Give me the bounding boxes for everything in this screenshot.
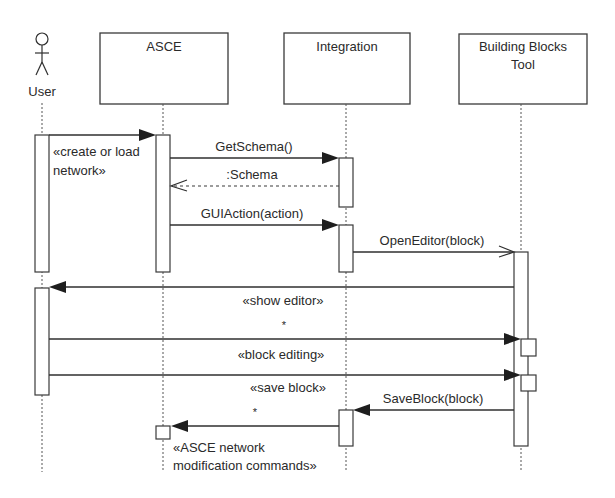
message-open-editor: OpenEditor(block)	[353, 233, 514, 257]
message-get-schema-label: GetSchema()	[215, 139, 292, 154]
activation-integration-1	[339, 158, 353, 207]
message-modification-label-line1: «ASCE network	[173, 440, 265, 455]
stick-figure-icon	[35, 33, 49, 75]
message-schema-label: :Schema	[226, 167, 278, 182]
message-schema-return: :Schema	[171, 167, 339, 191]
participant-bbt-label-line2: Tool	[511, 57, 535, 72]
activation-user-2	[35, 288, 49, 395]
message-create-label-line1: «create or load	[53, 144, 140, 159]
message-save-block-label: «save block»	[250, 380, 326, 395]
message-open-editor-label: OpenEditor(block)	[380, 233, 485, 248]
message-modification-label-line2: modification commands»	[173, 458, 317, 473]
multiplicity-mark-1: *	[282, 319, 287, 331]
message-save-block-call-label: SaveBlock(block)	[383, 391, 483, 406]
activation-integration-2	[339, 225, 353, 272]
activation-asce-1	[156, 135, 170, 272]
participant-asce-label: ASCE	[146, 39, 182, 54]
message-get-schema: GetSchema()	[170, 139, 339, 164]
participant-building-blocks-tool: Building Blocks Tool	[459, 34, 587, 104]
message-gui-action: GUIAction(action)	[170, 206, 339, 231]
message-gui-action-label: GUIAction(action)	[201, 206, 304, 221]
activation-asce-2	[156, 426, 170, 439]
participant-asce: ASCE	[100, 33, 228, 104]
actor-user: User	[28, 33, 56, 99]
message-asce-network-modification: «ASCE network modification commands»	[171, 420, 339, 473]
participant-integration-label: Integration	[316, 39, 377, 54]
message-show-editor: «show editor»	[49, 281, 514, 308]
message-create-or-load-network: «create or load network»	[49, 129, 156, 178]
actor-user-label: User	[28, 84, 56, 99]
message-create-label-line2: network»	[53, 163, 106, 178]
activation-bbt-save-block	[521, 375, 536, 391]
participant-bbt-label-line1: Building Blocks	[479, 39, 568, 54]
message-show-editor-label: «show editor»	[243, 293, 324, 308]
message-block-editing-label: «block editing»	[238, 347, 325, 362]
activation-bbt-block-editing	[521, 339, 536, 356]
message-save-block-call: SaveBlock(block)	[353, 391, 514, 416]
activation-integration-3	[339, 410, 353, 446]
participant-integration: Integration	[284, 33, 410, 104]
activation-user-1	[35, 135, 49, 272]
multiplicity-mark-2: *	[253, 406, 258, 418]
message-block-editing: «block editing»	[49, 333, 521, 362]
